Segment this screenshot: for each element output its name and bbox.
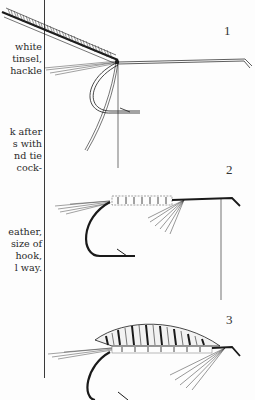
figure-1-illustration bbox=[2, 8, 252, 168]
book-page: white tinsel, hackle k after s with nd t… bbox=[0, 0, 255, 400]
figure-2-illustration bbox=[55, 196, 240, 300]
figure-3-illustration bbox=[48, 324, 240, 400]
fly-tying-illustrations bbox=[0, 0, 255, 400]
